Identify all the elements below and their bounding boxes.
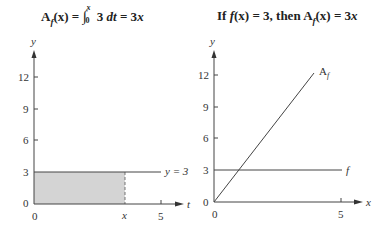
x-axis-arrow-icon bbox=[354, 200, 363, 205]
x-axis-label: t bbox=[187, 198, 191, 210]
y-axis-label: y bbox=[30, 35, 36, 47]
af-line bbox=[214, 73, 314, 202]
af-line-label: A bbox=[319, 65, 327, 77]
y-tick-6: 6 bbox=[23, 134, 29, 146]
y-tick-0: 0 bbox=[203, 196, 209, 208]
y-tick-3: 3 bbox=[23, 166, 29, 178]
x-tick-5: 5 bbox=[158, 210, 164, 222]
x-tick-x: x bbox=[121, 209, 127, 221]
af-line-label-sub: f bbox=[327, 71, 331, 80]
y-tick-9: 9 bbox=[23, 103, 29, 115]
left-chart: y 12 9 6 3 0 0 x 5 t y = 3 bbox=[18, 35, 191, 222]
y-tick-9: 9 bbox=[203, 101, 209, 113]
x-tick-0: 0 bbox=[32, 210, 38, 222]
y-tick-12: 12 bbox=[18, 71, 29, 83]
x-tick-5: 5 bbox=[338, 208, 344, 220]
x-axis-arrow-icon bbox=[175, 202, 184, 207]
charts-canvas: y 12 9 6 3 0 0 x 5 t y = 3 y 12 9 6 3 0 … bbox=[0, 0, 391, 231]
y-axis-label: y bbox=[209, 35, 215, 47]
y-tick-6: 6 bbox=[203, 132, 209, 144]
y-tick-12: 12 bbox=[198, 69, 209, 81]
x-tick-0: 0 bbox=[212, 208, 218, 220]
y-axis-arrow-icon bbox=[32, 50, 37, 58]
f-line-label: f bbox=[346, 164, 351, 176]
right-chart: y 12 9 6 3 0 0 5 x A f f bbox=[198, 35, 371, 220]
y-axis-arrow-icon bbox=[212, 50, 217, 58]
y-tick-3: 3 bbox=[203, 164, 209, 176]
y-tick-0: 0 bbox=[23, 197, 29, 209]
y3-line-label: y = 3 bbox=[164, 165, 189, 177]
x-axis-label: x bbox=[365, 196, 371, 208]
shaded-area bbox=[34, 172, 125, 204]
